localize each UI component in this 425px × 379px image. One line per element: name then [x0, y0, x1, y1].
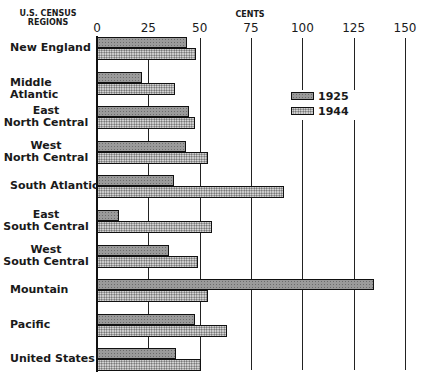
gridline	[251, 38, 252, 370]
bar-1944	[97, 359, 201, 371]
bar-1944	[97, 83, 175, 95]
bar-1944	[97, 290, 208, 302]
category-label: EastSouth Central	[0, 209, 92, 233]
x-tick-label: 125	[334, 21, 374, 35]
category-label: WestNorth Central	[0, 140, 92, 164]
bar-1944	[97, 221, 212, 233]
x-tick-label: 75	[231, 21, 271, 35]
legend-swatch-1925	[291, 92, 314, 100]
gridline	[354, 38, 355, 370]
category-label: South Atlantic	[10, 180, 102, 192]
legend-label-1925: 1925	[318, 90, 349, 103]
x-tick-label: 100	[282, 21, 322, 35]
bar-1925	[97, 175, 174, 186]
y-axis-title-line2: REGIONS	[8, 18, 88, 27]
x-tick-label: 50	[180, 21, 220, 35]
category-label: New England	[10, 42, 102, 54]
y-axis-title: U.S. CENSUS REGIONS	[8, 9, 88, 27]
legend-label-1944: 1944	[318, 105, 349, 118]
bar-1925	[97, 141, 186, 152]
category-label: Pacific	[10, 319, 102, 331]
bar-1944	[97, 48, 196, 60]
bar-1944	[97, 186, 284, 198]
category-label: Mountain	[10, 284, 102, 296]
category-label: WestSouth Central	[0, 244, 92, 268]
bar-1925	[97, 279, 374, 290]
category-label: EastNorth Central	[0, 105, 92, 129]
gridline	[200, 38, 201, 370]
x-tick-label: 150	[385, 21, 425, 35]
category-label: United States	[10, 353, 102, 365]
bar-1925	[97, 37, 187, 48]
bar-1925	[97, 245, 169, 256]
bar-1925	[97, 72, 142, 83]
x-axis-title: CENTS	[230, 10, 270, 19]
legend: 1925 1944	[290, 90, 360, 120]
bar-1925	[97, 210, 119, 221]
x-tick-label: 25	[128, 21, 168, 35]
bar-1944	[97, 117, 195, 129]
gridline	[405, 38, 406, 370]
y-axis-title-line1: U.S. CENSUS	[8, 9, 88, 18]
bar-1925	[97, 314, 195, 325]
x-tick-label: 0	[77, 21, 117, 35]
category-label: Middle Atlantic	[10, 77, 102, 101]
bar-1925	[97, 348, 176, 359]
bar-1925	[97, 106, 189, 117]
bar-1944	[97, 152, 208, 164]
legend-swatch-1944	[291, 107, 314, 115]
gridline	[302, 38, 303, 370]
bar-1944	[97, 256, 198, 268]
bar-1944	[97, 325, 227, 337]
